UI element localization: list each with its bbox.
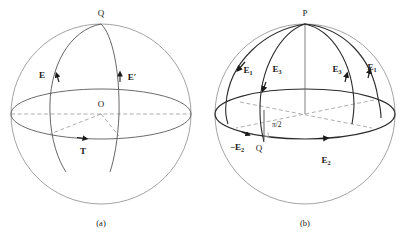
panel-b-arrow-right-inner — [345, 74, 347, 82]
panel-b-label-arc-left-outer: E1 — [243, 65, 252, 76]
panel-b-arrow-left-inner — [263, 82, 266, 90]
panel-b-label-origin: Q — [256, 143, 263, 153]
panel-b: P E1 E3 E3 E1 π/2 −E2 Q E2 (b) — [215, 8, 395, 228]
panel-b-label-equator-left: −E2 — [230, 142, 244, 153]
panel-b-caption: (b) — [300, 218, 310, 228]
panel-a-caption: (a) — [96, 218, 106, 228]
panel-a-radius-right — [101, 114, 119, 136]
panel-a-meridian-arc-left — [50, 24, 101, 172]
panel-a-label-pole: Q — [98, 8, 105, 18]
panel-a: Q O E E′ T (a) — [11, 8, 191, 228]
panel-b-label-arc-right-inner: E3 — [332, 64, 341, 75]
panel-b-label-arc-left-inner: E3 — [272, 64, 281, 75]
panel-b-label-equator-right: E2 — [321, 155, 330, 166]
figure-container: Q O E E′ T (a) — [0, 0, 403, 239]
panel-b-label-pole: P — [302, 8, 307, 18]
panel-b-label-arc-right-outer: E1 — [367, 62, 376, 73]
panel-b-label-angle: π/2 — [272, 120, 282, 129]
panel-a-vector-e-arrow — [57, 74, 60, 82]
panel-b-right-angle-mark — [264, 132, 269, 137]
panel-b-arc-left-inner — [260, 24, 305, 142]
panel-a-label-vector-e: E — [39, 70, 45, 80]
panel-a-radius-left — [50, 114, 101, 134]
panel-a-meridian-arc-right — [101, 24, 119, 172]
panel-a-label-vector-e-prime: E′ — [128, 72, 137, 82]
panel-a-label-center: O — [98, 99, 105, 109]
panel-a-label-tangent: T — [80, 146, 86, 156]
sphere-figure-svg: Q O E E′ T (a) — [0, 0, 403, 239]
